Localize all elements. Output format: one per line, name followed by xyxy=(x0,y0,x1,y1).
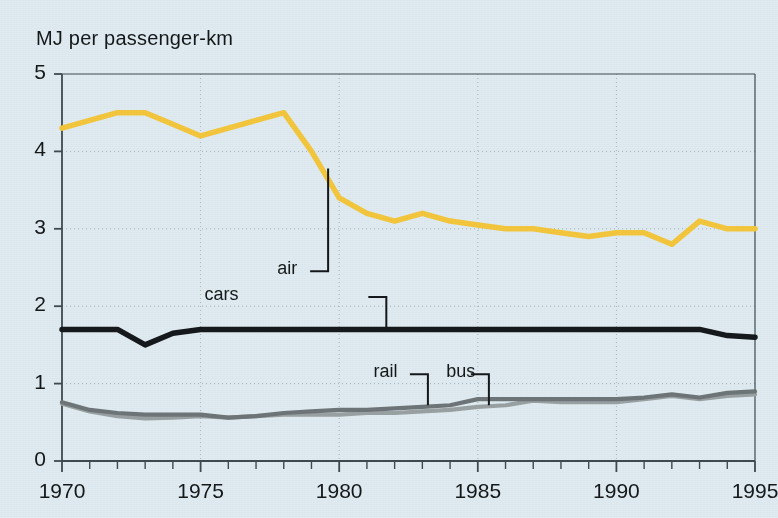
series-line-cars xyxy=(62,329,755,344)
series-line-air xyxy=(62,113,755,245)
x-tick-label-1970: 1970 xyxy=(30,479,94,503)
series-label-air: air xyxy=(277,258,297,279)
x-tick-label-1980: 1980 xyxy=(307,479,371,503)
leader-line-air xyxy=(310,168,328,271)
leader-line-cars xyxy=(368,297,386,328)
chart-figure: MJ per passenger-km 012345 1970197519801… xyxy=(0,0,778,518)
x-tick-label-1990: 1990 xyxy=(584,479,648,503)
plot-frame xyxy=(62,74,755,461)
y-tick-label-1: 1 xyxy=(16,370,46,394)
y-tick-label-5: 5 xyxy=(16,60,46,84)
series-label-bus: bus xyxy=(446,361,475,382)
series-label-rail: rail xyxy=(374,361,398,382)
x-tick-label-1995: 1995 xyxy=(723,479,778,503)
series-label-cars: cars xyxy=(204,284,238,305)
y-tick-label-3: 3 xyxy=(16,215,46,239)
x-tick-label-1975: 1975 xyxy=(169,479,233,503)
horizontal-gridlines xyxy=(62,151,755,383)
y-tick-label-2: 2 xyxy=(16,292,46,316)
x-tick-label-1985: 1985 xyxy=(446,479,510,503)
chart-plot-area xyxy=(0,0,778,518)
y-tick-label-0: 0 xyxy=(16,447,46,471)
chart-series-group xyxy=(62,113,755,419)
leader-line-rail xyxy=(410,374,428,405)
y-tick-label-4: 4 xyxy=(16,137,46,161)
